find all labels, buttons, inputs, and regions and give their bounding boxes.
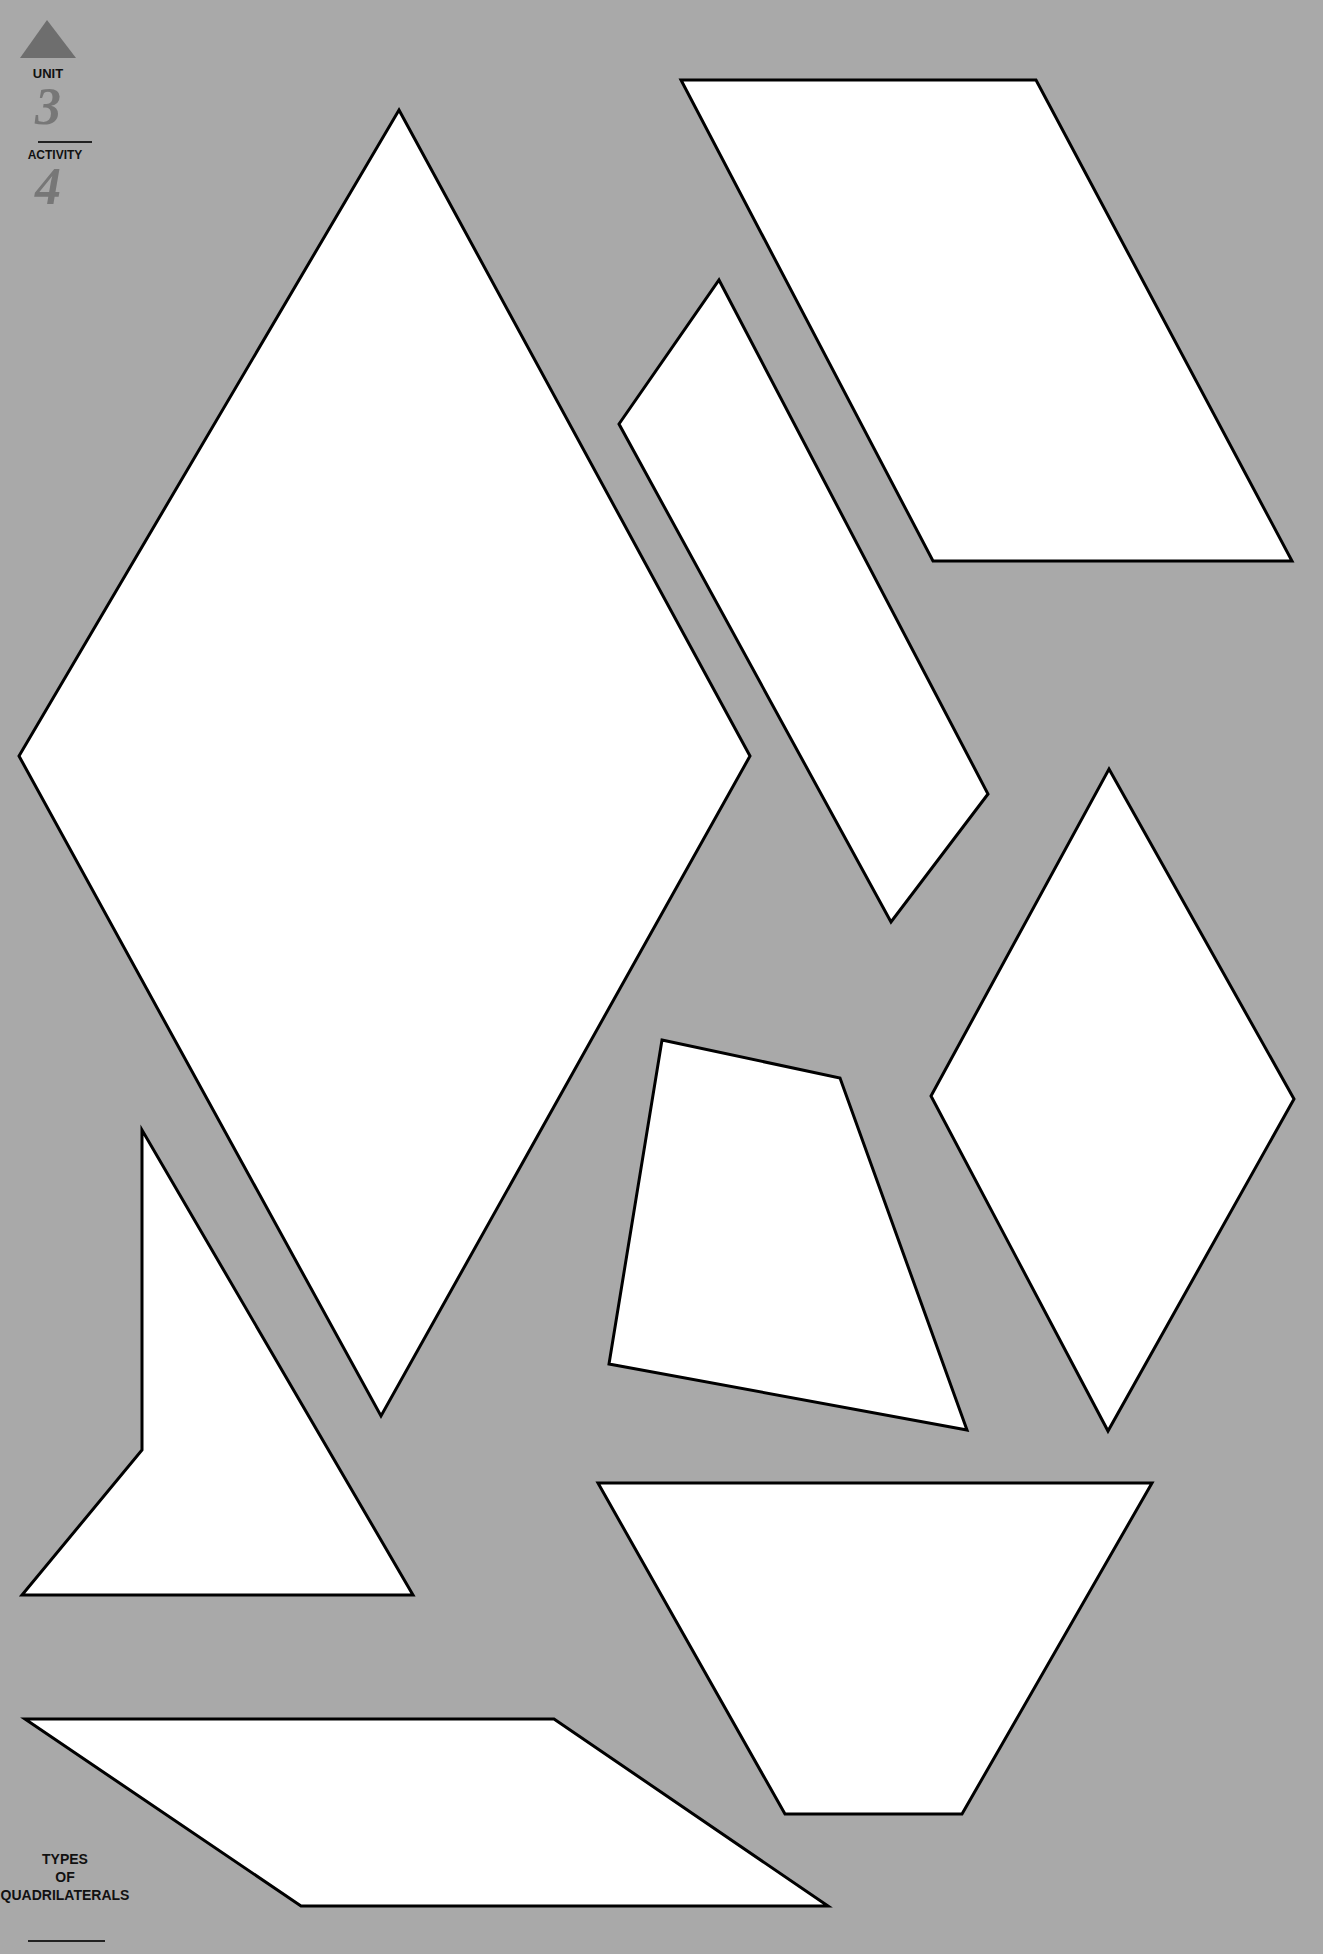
header-divider <box>38 141 92 143</box>
shape-rhombus <box>931 769 1294 1431</box>
title-line-2: OF <box>0 1868 130 1886</box>
title-line-1: TYPES <box>0 1850 130 1868</box>
arrow-up-icon <box>20 20 76 58</box>
unit-number: 3 <box>18 82 78 132</box>
quadrilateral-shapes <box>0 0 1323 1954</box>
shape-irregular-quadrilateral <box>609 1040 967 1430</box>
activity-number: 4 <box>18 162 78 212</box>
footer-divider <box>28 1940 105 1942</box>
title-line-3: QUADRILATERALS <box>0 1886 130 1904</box>
shape-trapezoid <box>598 1483 1152 1814</box>
page-title: TYPES OF QUADRILATERALS <box>0 1850 130 1904</box>
shape-parallelogram-bottom <box>25 1719 828 1906</box>
